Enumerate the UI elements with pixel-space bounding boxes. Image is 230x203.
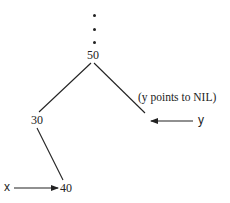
edge-50-right-nil (94, 63, 145, 113)
ellipsis-dot (93, 28, 96, 31)
ellipsis-dot (93, 41, 96, 44)
node-50: 50 (87, 49, 99, 61)
nil-annotation: (y points to NIL) (138, 92, 216, 104)
ellipsis-dot (93, 14, 96, 17)
edge-50-30 (39, 63, 91, 112)
node-30: 30 (31, 114, 43, 126)
edge-30-40 (37, 128, 63, 180)
node-40: 40 (60, 182, 72, 194)
bst-diagram: 50 30 40 (y points to NIL) y x (0, 0, 230, 203)
x-pointer-label: x (4, 181, 10, 193)
y-pointer-label: y (198, 114, 204, 126)
